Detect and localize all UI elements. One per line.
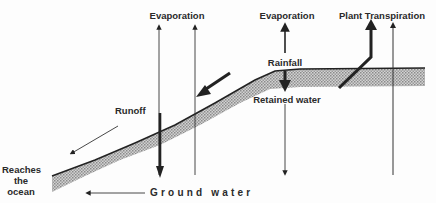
label-evaporation-mid: Evaporation (257, 10, 317, 21)
label-ground-water: Ground water (150, 187, 253, 198)
label-ocean: ocean (2, 186, 40, 197)
infiltration-arrowhead (156, 166, 164, 178)
diagram-graphics (0, 0, 436, 203)
label-reaches: Reaches (2, 164, 40, 175)
label-plant-transpiration: Plant Transpiration (339, 10, 425, 21)
soil-layer (52, 68, 425, 192)
runoff-arrow-thin (72, 126, 118, 153)
water-cycle-diagram: Evaporation Evaporation Plant Transpirat… (0, 0, 436, 203)
label-retained-water: Retained water (250, 94, 324, 105)
label-runoff: Runoff (115, 105, 146, 116)
label-rainfall: Rainfall (262, 57, 308, 68)
label-evaporation-left: Evaporation (147, 10, 207, 21)
label-the: the (2, 175, 40, 186)
